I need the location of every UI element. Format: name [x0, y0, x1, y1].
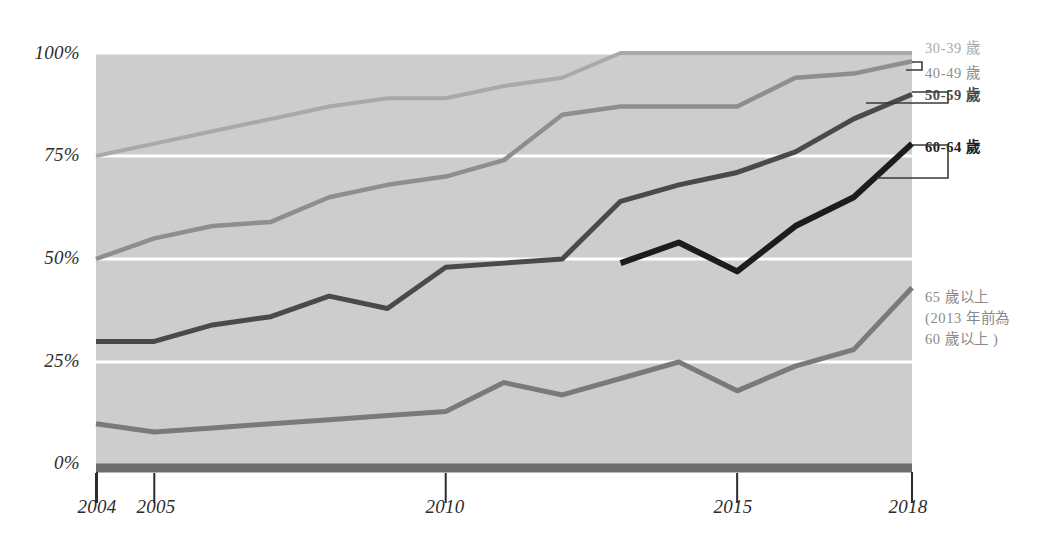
line-chart: 100% 75% 50% 25% 0% 2004 2005 2010 2015 … — [0, 0, 1059, 557]
series-line-4 — [96, 288, 912, 432]
legend-callout-60-64 — [877, 145, 948, 178]
series-line-0 — [96, 53, 912, 156]
chart-graphics — [0, 0, 1059, 557]
